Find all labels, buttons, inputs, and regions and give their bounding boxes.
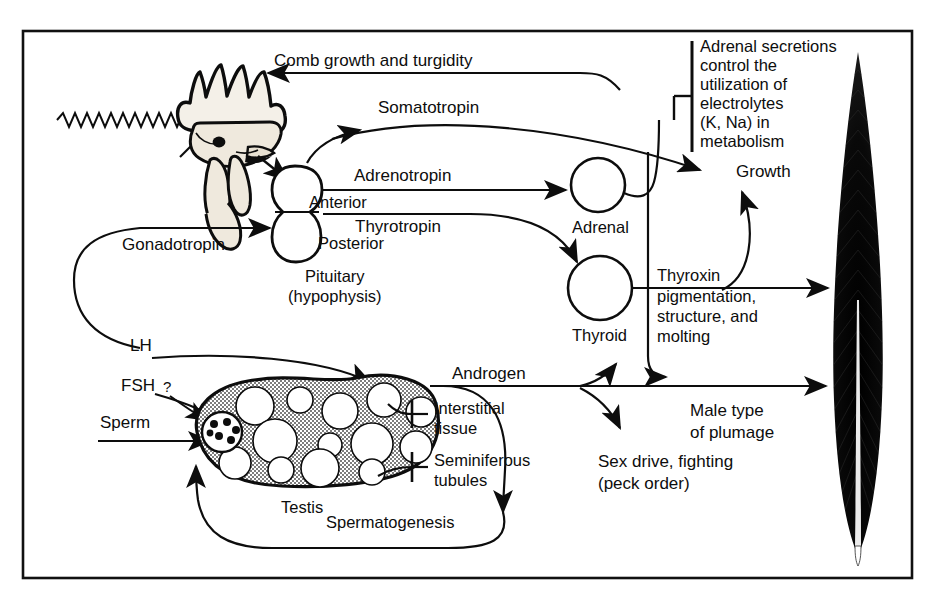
testis-organ bbox=[196, 375, 438, 487]
adrenal-note-line-5: (K, Na) in bbox=[700, 113, 770, 131]
pituitary-label: Pituitary bbox=[305, 267, 365, 285]
adrenal-note-line-2: control the bbox=[700, 56, 777, 74]
spermatogenesis-label: Spermatogenesis bbox=[326, 513, 454, 531]
comb-growth-label: Comb growth and turgidity bbox=[274, 51, 473, 70]
adrenal-note-line-6: metabolism bbox=[700, 132, 784, 150]
interstitial-line-1: Interstitial bbox=[434, 399, 505, 417]
growth-label: Growth bbox=[736, 162, 791, 181]
adrenal-label: Adrenal bbox=[572, 218, 629, 236]
sperm-label: Sperm bbox=[100, 413, 150, 432]
seminiferous-line-1: Seminiferous bbox=[434, 451, 530, 469]
thyroxin-line-3: structure, and bbox=[657, 307, 758, 325]
figure-canvas: Pituitary (hypophysis) Anterior Posterio… bbox=[0, 0, 934, 603]
sex-drive-line-2: (peck order) bbox=[598, 474, 690, 493]
lh-label: LH bbox=[130, 336, 152, 355]
background bbox=[0, 0, 934, 603]
adrenal-note-line-3: utilization of bbox=[700, 75, 788, 93]
androgen-label: Androgen bbox=[452, 364, 526, 383]
fsh-label: FSH bbox=[121, 376, 155, 395]
sex-drive-line-1: Sex drive, fighting bbox=[598, 452, 733, 471]
adrenal-note-line-4: electrolytes bbox=[700, 94, 783, 112]
testis-label: Testis bbox=[281, 498, 323, 516]
anterior-label: Anterior bbox=[309, 193, 367, 211]
adrenal-note-line-1: Adrenal secretions bbox=[700, 37, 837, 55]
thyroid-label: Thyroid bbox=[572, 326, 627, 344]
male-plumage-line-1: Male type bbox=[690, 401, 764, 420]
thyroxin-line-1: Thyroxin bbox=[657, 266, 720, 284]
adrenal-gland bbox=[571, 158, 625, 212]
thyroxin-line-4: molting bbox=[657, 327, 710, 345]
hypophysis-label: (hypophysis) bbox=[288, 287, 382, 305]
thyrotropin-label: Thyrotropin bbox=[355, 217, 441, 236]
thyroid-gland bbox=[568, 256, 632, 320]
gonadotropin-label: Gonadotropin bbox=[122, 235, 225, 254]
question-label: ? bbox=[163, 378, 171, 395]
seminiferous-line-2: tubules bbox=[434, 471, 487, 489]
adrenotropin-label: Adrenotropin bbox=[354, 166, 451, 185]
somatotropin-label: Somatotropin bbox=[378, 98, 479, 117]
interstitial-line-2: tissue bbox=[434, 419, 477, 437]
thyroxin-line-2: pigmentation, bbox=[657, 287, 756, 305]
posterior-label: Posterior bbox=[318, 234, 385, 252]
male-plumage-line-2: of plumage bbox=[690, 423, 774, 442]
